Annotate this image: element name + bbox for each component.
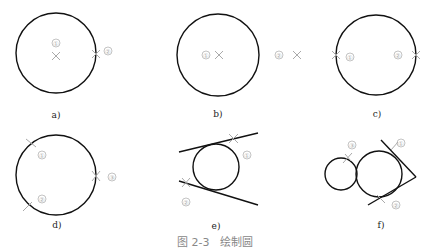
marker-2: ② bbox=[105, 48, 111, 56]
cross-marker bbox=[332, 51, 420, 59]
marker-2: ② bbox=[395, 52, 401, 60]
tangent-line bbox=[368, 177, 416, 205]
large-circle bbox=[356, 151, 402, 197]
panel-label-e: e) bbox=[212, 221, 221, 231]
tangent-line bbox=[179, 181, 258, 205]
tangent-line bbox=[179, 133, 258, 152]
marker-3: ③ bbox=[349, 142, 355, 150]
panel-label-f: f) bbox=[378, 220, 385, 230]
panel-c: ① ② c) bbox=[332, 15, 420, 119]
panel-b: ① ② b) bbox=[177, 14, 301, 119]
circle bbox=[16, 135, 96, 215]
marker-3: ③ bbox=[109, 174, 115, 182]
marker-1: ① bbox=[39, 152, 45, 160]
marker-2: ② bbox=[39, 196, 45, 204]
marker-2: ② bbox=[183, 199, 189, 207]
marker-1: ① bbox=[53, 40, 59, 48]
panel-f: ③ ① ② f) bbox=[325, 139, 416, 230]
cross-marker bbox=[215, 51, 301, 59]
marker-2: ② bbox=[276, 52, 282, 60]
panel-label-b: b) bbox=[213, 109, 222, 119]
circle bbox=[16, 13, 96, 93]
tick-marker bbox=[23, 139, 100, 211]
panel-label-d: d) bbox=[52, 220, 61, 230]
drawing-circles-figure: ① ② a) ① ② b) ① ② c) bbox=[0, 0, 429, 251]
circle bbox=[177, 14, 259, 96]
panel-e: ① ② e) bbox=[179, 133, 258, 231]
panel-d: ① ② ③ d) bbox=[16, 135, 116, 230]
panel-label-a: a) bbox=[52, 110, 61, 120]
marker-1: ① bbox=[244, 152, 250, 160]
circle bbox=[193, 144, 239, 190]
small-circle bbox=[325, 158, 357, 190]
figure-caption: 图 2-3 绘制圆 bbox=[177, 235, 253, 249]
marker-1: ① bbox=[347, 54, 353, 62]
marker-1: ① bbox=[203, 52, 209, 60]
panel-label-c: c) bbox=[373, 109, 382, 119]
cross-marker bbox=[52, 50, 100, 60]
panel-a: ① ② a) bbox=[16, 13, 112, 120]
marker-1: ① bbox=[398, 140, 404, 148]
marker-2: ② bbox=[393, 202, 399, 210]
cross-marker bbox=[182, 134, 238, 187]
